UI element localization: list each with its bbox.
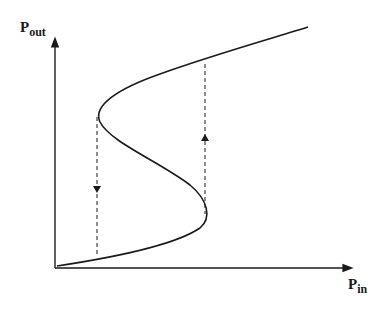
x-axis-label: Pin — [348, 277, 367, 295]
s-curve — [57, 27, 308, 266]
y-axis-label-main: P — [20, 19, 29, 35]
hysteresis-diagram — [0, 0, 382, 316]
y-axis-label: Pout — [20, 20, 46, 38]
y-axis-label-subscript: out — [29, 25, 46, 39]
arrow-down-icon — [93, 186, 101, 193]
x-axis-label-subscript: in — [357, 282, 367, 296]
arrow-up-icon — [201, 134, 209, 141]
x-axis-label-main: P — [348, 276, 357, 292]
